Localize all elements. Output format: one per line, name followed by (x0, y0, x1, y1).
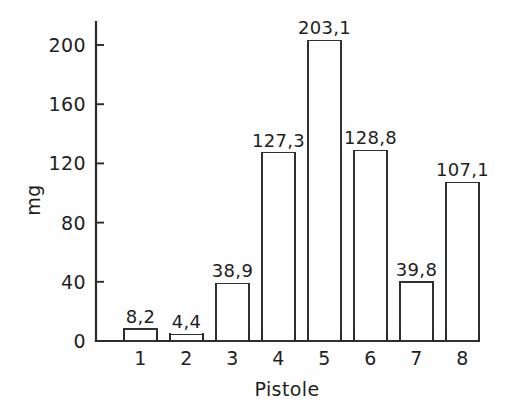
x-tick-label: 3 (226, 347, 239, 369)
bar (170, 334, 203, 341)
bar-value-label: 4,4 (172, 311, 202, 332)
y-tick-label: 120 (49, 152, 86, 174)
x-tick-label: 4 (272, 347, 285, 369)
y-axis-title: mg (22, 184, 44, 215)
bar-value-label: 127,3 (252, 130, 305, 151)
bar-value-label: 203,1 (298, 17, 351, 38)
bar-value-label: 8,2 (126, 306, 156, 327)
x-axis-title: Pistole (254, 378, 319, 400)
y-tick-label: 200 (49, 34, 86, 56)
x-tick-label: 6 (364, 347, 377, 369)
bar-value-label: 128,8 (344, 127, 397, 148)
chart-canvas: mg 04080120160200 8,24,438,9127,3203,112… (0, 0, 505, 406)
bar-chart-figure: mg 04080120160200 8,24,438,9127,3203,112… (0, 0, 505, 406)
bar (262, 153, 295, 341)
x-tick-label: 8 (456, 347, 469, 369)
x-tick-label: 7 (410, 347, 423, 369)
bar (400, 282, 433, 341)
bar (216, 283, 249, 341)
bars-group (124, 40, 479, 341)
y-tick-label: 160 (49, 93, 86, 115)
x-tick-label: 5 (318, 347, 331, 369)
bar-value-label: 38,9 (212, 260, 253, 281)
bar (446, 182, 479, 341)
y-tick-label: 80 (61, 212, 86, 234)
x-tick-label: 1 (134, 347, 147, 369)
bar-value-label: 39,8 (396, 259, 437, 280)
bar (354, 150, 387, 341)
x-tick-label: 2 (180, 347, 193, 369)
bar (308, 40, 341, 341)
y-tick-label: 40 (61, 271, 86, 293)
y-tick-label: 0 (74, 330, 87, 352)
bar (124, 329, 157, 341)
bar-value-label: 107,1 (436, 159, 489, 180)
